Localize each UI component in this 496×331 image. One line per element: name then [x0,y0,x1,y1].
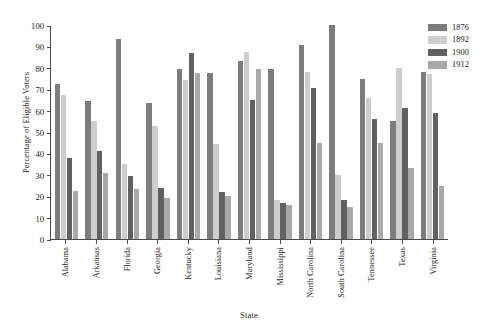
x-axis-label-cell: Arkansas [81,247,112,307]
bar[interactable] [329,25,334,239]
legend-item[interactable]: 1876 [428,21,469,34]
legend-swatch [428,61,447,69]
bar[interactable] [274,200,279,239]
bar-group [295,26,326,239]
x-axis-tick-label: Alabama [61,247,70,277]
legend-item[interactable]: 1892 [428,34,469,47]
y-axis-tick: 90 [35,42,51,52]
legend-item[interactable]: 1912 [428,59,469,72]
bar[interactable] [152,126,157,239]
bar[interactable] [244,52,249,239]
bar[interactable] [286,205,291,239]
bar-group [82,26,113,239]
bar[interactable] [390,121,395,239]
x-axis-tick [417,240,448,246]
bar[interactable] [177,69,182,239]
bar[interactable] [189,53,194,239]
x-axis-label-cell: South Carolina [325,247,356,307]
bar[interactable] [146,103,151,239]
y-axis-title: Percentage of Eligible Voters [22,43,31,203]
bar[interactable] [347,207,352,239]
x-axis-tick [203,240,234,246]
x-axis-label-cell: Texas [387,247,418,307]
bar[interactable] [207,73,212,239]
x-axis-tick-mark [433,240,434,244]
bar[interactable] [91,121,96,239]
bar[interactable] [433,113,438,239]
bar[interactable] [61,95,66,239]
legend-swatch [428,36,447,44]
x-axis-labels: AlabamaArkansasFloridaGeorgiaKentuckyLou… [50,247,448,307]
bar[interactable] [317,143,322,239]
legend-item[interactable]: 1900 [428,46,469,59]
x-axis-tick-mark [188,240,189,244]
bar[interactable] [73,191,78,239]
bar[interactable] [97,151,102,239]
bar[interactable] [238,61,243,239]
legend: 1876189219001912 [428,21,469,71]
bar[interactable] [427,74,432,239]
bar[interactable] [219,192,224,239]
x-axis-tick-label: Texas [398,247,407,266]
x-axis-tick-label: Maryland [244,247,253,280]
y-axis-tick: 60 [35,107,51,117]
bar[interactable] [116,39,121,239]
bar[interactable] [268,69,273,239]
bar[interactable] [311,88,316,239]
y-axis-tick: 50 [35,128,51,138]
bar[interactable] [103,173,108,239]
bar[interactable] [366,98,371,239]
bar[interactable] [305,72,310,239]
y-axis-tick-label: 40 [35,149,47,159]
bar[interactable] [372,119,377,239]
legend-swatch [428,49,447,57]
bar[interactable] [158,188,163,239]
bar[interactable] [299,45,304,239]
bar[interactable] [128,176,133,239]
x-axis-tick-mark [371,240,372,244]
bar[interactable] [439,186,444,240]
bar-group [387,26,418,239]
x-axis-label-cell: Virginia [417,247,448,307]
bar[interactable] [250,100,255,239]
bar[interactable] [378,143,383,239]
y-axis-tick: 80 [35,64,51,74]
x-axis-tick [325,240,356,246]
bar[interactable] [280,203,285,239]
y-axis-tick-label: 50 [35,128,47,138]
bar[interactable] [225,196,230,239]
x-axis-tick-label: Tennessee [367,247,376,281]
legend-label: 1900 [447,48,469,57]
bar[interactable] [335,175,340,239]
x-axis-label-cell: Tennessee [356,247,387,307]
bar[interactable] [122,164,127,239]
y-axis-tick-label: 100 [31,21,47,31]
x-axis-tick [234,240,265,246]
plot-area: 0102030405060708090100 [50,26,448,240]
x-axis-ticks [50,240,448,246]
bar[interactable] [213,144,218,239]
bar[interactable] [85,101,90,239]
bar[interactable] [55,84,60,239]
bar[interactable] [134,189,139,239]
bar[interactable] [183,80,188,239]
bar[interactable] [67,158,72,239]
x-axis-tick-mark [65,240,66,244]
x-axis-tick-label: Florida [122,247,131,271]
y-axis-tick-label: 70 [35,85,47,95]
bar[interactable] [360,79,365,240]
bar[interactable] [396,68,401,239]
x-axis-tick-label: Georgia [153,247,162,274]
bar[interactable] [195,73,200,239]
bar[interactable] [256,69,261,239]
bar[interactable] [421,72,426,239]
x-axis-tick-mark [218,240,219,244]
bar[interactable] [341,200,346,239]
x-axis-tick-mark [249,240,250,244]
bar[interactable] [164,198,169,239]
bar[interactable] [402,108,407,239]
bar[interactable] [408,168,413,239]
bars-layer [51,26,448,239]
x-axis-tick-mark [127,240,128,244]
x-axis-label-cell: North Carolina [295,247,326,307]
